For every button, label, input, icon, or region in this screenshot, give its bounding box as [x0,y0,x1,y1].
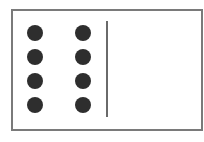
dot-col2-row3 [75,73,91,89]
right-empty-region [110,11,199,127]
vertical-divider-line [106,21,108,117]
dot-col2-row2 [75,49,91,65]
dot-col1-row3 [27,73,43,89]
dot-col2-row1 [75,25,91,41]
dot-col1-row4 [27,97,43,113]
dot-col2-row4 [75,97,91,113]
dot-col1-row1 [27,25,43,41]
dot-col1-row2 [27,49,43,65]
